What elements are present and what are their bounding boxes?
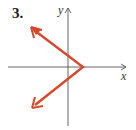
x-axis <box>8 64 126 70</box>
coordinate-plane <box>0 0 136 130</box>
v-graph <box>31 27 83 108</box>
lower-arrowhead-icon <box>32 106 43 108</box>
graph-figure: 3. y x <box>0 0 136 130</box>
